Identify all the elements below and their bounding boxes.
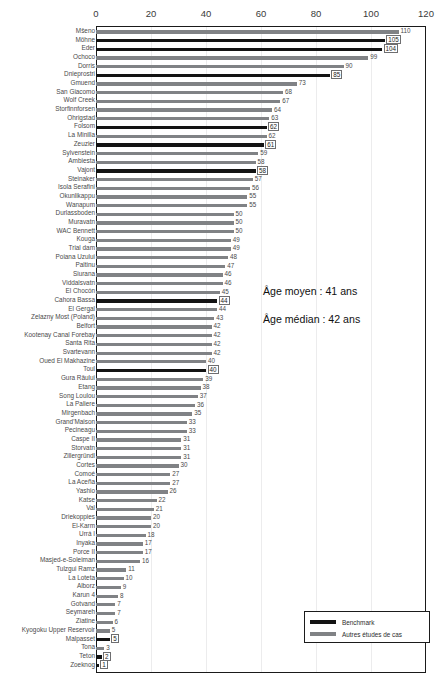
bar-category-label: Oued El Makhazine — [39, 357, 95, 364]
bar-value-label: 31 — [183, 453, 190, 460]
bar-category-label: El-Karm — [72, 522, 95, 529]
legend: Benchmark Autres études de cas — [304, 611, 430, 643]
bar-value-label: 62 — [268, 122, 279, 131]
bar-category-label: Ochoco — [73, 53, 95, 60]
bar-value-label: 20 — [153, 513, 160, 520]
bar-value-label: 1 — [100, 660, 108, 669]
bar-value-label: 39 — [205, 375, 212, 382]
bar-category-label: El Chocón — [66, 287, 96, 294]
bar-value-label: 36 — [197, 401, 204, 408]
bar-other-case — [96, 516, 151, 519]
bar-category-label: Katse — [79, 496, 95, 503]
bar-other-case — [96, 551, 143, 554]
bar-other-case — [96, 352, 212, 355]
bar-category-label: Paltinu — [75, 261, 95, 268]
legend-label-other-cases: Autres études de cas — [342, 631, 402, 638]
bar-category-label: Isola Serafini — [58, 183, 95, 190]
bar-category-label: Gura Râului — [61, 374, 95, 381]
bar-benchmark — [96, 143, 264, 147]
bar-other-case — [96, 612, 115, 615]
bar-value-label: 33 — [189, 427, 196, 434]
bar-category-label: San Giacomo — [56, 88, 95, 95]
bar-value-label: 20 — [153, 522, 160, 529]
bar-value-label: 27 — [172, 470, 179, 477]
x-tick-80: 80 — [311, 8, 322, 19]
legend-swatch-benchmark-icon — [310, 620, 336, 624]
bar-category-label: Caspe II — [71, 435, 95, 442]
bar-value-label: 62 — [269, 132, 276, 139]
bar-value-label: 38 — [203, 383, 210, 390]
bar-other-case — [96, 430, 187, 433]
bar-category-label: Folsom — [74, 122, 95, 129]
bar-category-label: Okunlikappu — [59, 192, 95, 199]
bar-other-case — [96, 152, 258, 155]
bar-other-case — [96, 603, 115, 606]
bar-value-label: 31 — [183, 444, 190, 451]
bar-other-case — [96, 542, 143, 545]
bar-value-label: 58 — [257, 166, 268, 175]
bar-category-label: Ambiesta — [68, 157, 95, 164]
bar-value-label: 46 — [225, 270, 232, 277]
bar-other-case — [96, 325, 212, 328]
bar-other-case — [96, 482, 170, 485]
bar-other-case — [96, 213, 234, 216]
bar-value-label: 67 — [282, 97, 289, 104]
x-tick-60: 60 — [256, 8, 267, 19]
bar-category-label: Ohrigstad — [67, 114, 95, 121]
bar-value-label: 73 — [299, 79, 306, 86]
legend-item-other-cases: Autres études de cas — [310, 628, 424, 640]
bar-value-label: 6 — [115, 618, 119, 625]
bar-other-case — [96, 412, 192, 415]
bar-category-label: Muravatn — [68, 218, 95, 225]
bar-category-label: Belfort — [77, 322, 95, 329]
bar-value-label: 110 — [401, 27, 411, 34]
bar-value-label: 35 — [194, 409, 201, 416]
bar-value-label: 55 — [249, 201, 256, 208]
bar-other-case — [96, 239, 231, 242]
bar-other-case — [96, 560, 140, 563]
bar-category-label: Santa Rita — [65, 339, 95, 346]
bar-benchmark — [96, 299, 217, 303]
bar-category-label: Storfinnforsen — [55, 105, 95, 112]
bar-category-label: La Loteta — [68, 574, 95, 581]
bar-category-label: Durlassboden — [56, 209, 95, 216]
bar-category-label: Grand'Maison — [55, 418, 95, 425]
bar-benchmark — [96, 369, 206, 373]
bar-benchmark — [96, 655, 102, 659]
bar-category-label: Malpasset — [66, 635, 95, 642]
bar-category-label: Ziatine — [76, 617, 95, 624]
bar-category-label: Steinaker — [68, 175, 95, 182]
bar-category-label: Val — [86, 504, 95, 511]
bar-category-label: Zillergründl — [63, 452, 95, 459]
bar-other-case — [96, 282, 223, 285]
bar-other-case — [96, 195, 247, 198]
bar-category-label: Pecineagu — [65, 426, 95, 433]
bar-category-label: Eder — [82, 44, 96, 51]
bar-other-case — [96, 135, 267, 138]
bar-other-case — [96, 308, 217, 311]
bar-value-label: 59 — [260, 149, 267, 156]
bar-other-case — [96, 265, 225, 268]
bar-other-case — [96, 117, 269, 120]
bar-category-label: Inyaka — [76, 539, 95, 546]
bar-value-label: 48 — [230, 253, 237, 260]
bar-other-case — [96, 456, 181, 459]
bar-value-label: 45 — [222, 288, 229, 295]
bar-value-label: 22 — [159, 496, 166, 503]
bar-other-case — [96, 378, 203, 381]
bar-category-label: Trial dam — [69, 244, 95, 251]
bar-value-label: 50 — [236, 227, 243, 234]
bar-benchmark — [96, 39, 385, 43]
bar-other-case — [96, 100, 280, 103]
bar-other-case — [96, 343, 212, 346]
bar-value-label: 68 — [285, 88, 292, 95]
bar-category-label: Karun 4 — [73, 591, 95, 598]
bar-other-case — [96, 568, 126, 571]
bar-category-label: Mšeno — [76, 27, 95, 34]
bar-other-case — [96, 91, 283, 94]
bar-category-label: Dorris — [78, 62, 95, 69]
bar-other-case — [96, 629, 110, 632]
bar-value-label: 55 — [249, 192, 256, 199]
bar-other-case — [96, 178, 253, 181]
bar-value-label: 105 — [386, 35, 401, 44]
